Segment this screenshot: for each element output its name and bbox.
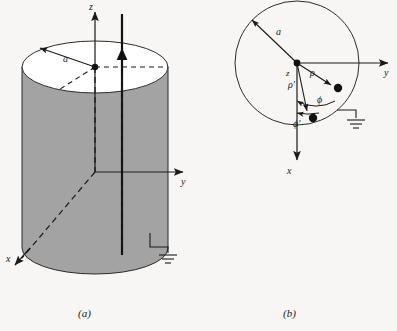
axis-label-y: y	[383, 67, 389, 78]
ground-symbol	[337, 110, 365, 128]
rho-label: ρ	[309, 67, 315, 78]
source-point	[309, 114, 317, 122]
panel-a-diagram: z y x a	[0, 0, 200, 300]
field-point	[334, 84, 342, 92]
panel-a-caption: (a)	[78, 307, 91, 319]
phi-label: ϕ	[317, 94, 322, 105]
radius-label-a: a	[63, 53, 68, 64]
figure-container: z y x a	[0, 0, 397, 331]
axis-label-z: z	[88, 1, 93, 12]
phi-prime-angle-arc	[297, 113, 319, 114]
panel-b-diagram: y x z a ρ ρ′ ϕ ϕ′	[200, 0, 397, 300]
rho-prime-label: ρ′	[287, 79, 296, 90]
radius-arrow-a	[252, 20, 297, 63]
axis-label-y: y	[180, 176, 186, 187]
phi-angle-arc	[297, 101, 335, 106]
axis-label-z: z	[285, 68, 290, 78]
origin-point	[92, 64, 98, 70]
axis-label-x: x	[286, 165, 292, 176]
phi-prime-label: ϕ′	[293, 118, 301, 129]
panel-b-caption: (b)	[283, 307, 296, 319]
radius-label-a: a	[276, 26, 281, 37]
origin-point	[294, 60, 301, 67]
axis-label-x: x	[5, 253, 11, 264]
